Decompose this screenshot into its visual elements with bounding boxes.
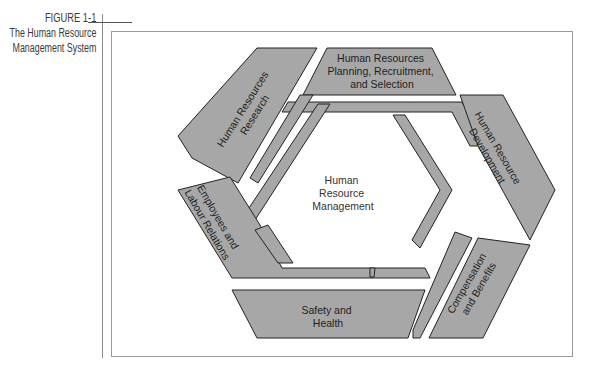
segment-compensation-inner-strip-2 bbox=[370, 268, 375, 277]
hrm-hexagon-diagram: Human Resources Research Human Resources… bbox=[0, 0, 606, 375]
segment-development-inner-strip bbox=[393, 115, 452, 248]
center-label: Human Resource Management bbox=[312, 174, 373, 212]
